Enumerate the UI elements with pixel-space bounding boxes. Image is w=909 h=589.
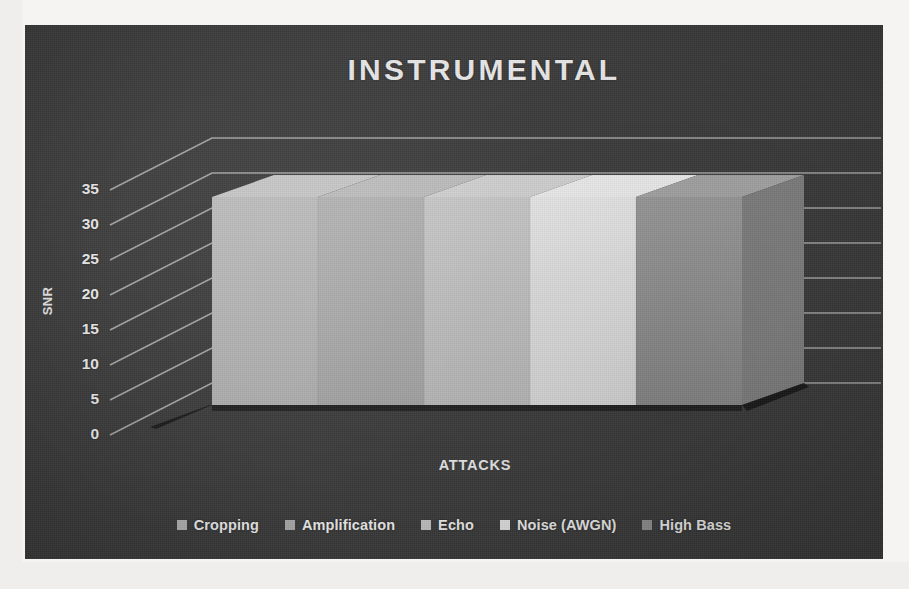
chart-page: INSTRUMENTAL SNR 35 30 25 20 15 10 5 0 A… xyxy=(0,0,909,589)
bar-side-face xyxy=(742,175,804,405)
y-tick-label-10: 10 xyxy=(55,355,99,373)
chart-title: INSTRUMENTAL xyxy=(25,53,883,87)
y-tick-label-20: 20 xyxy=(55,285,99,303)
y-tick-label-25: 25 xyxy=(55,250,99,268)
legend-label: Echo xyxy=(438,517,474,533)
y-tick-label-5: 5 xyxy=(55,390,99,408)
legend-swatch-icon xyxy=(421,520,431,530)
legend-swatch-icon xyxy=(500,520,510,530)
legend-swatch-icon xyxy=(285,520,295,530)
legend-item-high-bass[interactable]: High Bass xyxy=(642,517,731,533)
bar-front-faces xyxy=(212,197,742,405)
legend-swatch-icon xyxy=(642,520,652,530)
y-tick-label-0: 0 xyxy=(55,425,99,443)
bar-top-faces xyxy=(212,175,804,197)
y-tick-label-30: 30 xyxy=(55,215,99,233)
legend-item-echo[interactable]: Echo xyxy=(421,517,474,533)
chart-panel: INSTRUMENTAL SNR 35 30 25 20 15 10 5 0 A… xyxy=(25,25,883,559)
legend-item-cropping[interactable]: Cropping xyxy=(177,517,259,533)
legend-item-noise-awgn[interactable]: Noise (AWGN) xyxy=(500,517,616,533)
bar-group-3d xyxy=(25,25,883,559)
chart-legend: Cropping Amplification Echo Noise (AWGN)… xyxy=(25,517,883,533)
legend-label: Noise (AWGN) xyxy=(517,517,616,533)
legend-label: Amplification xyxy=(302,517,395,533)
legend-swatch-icon xyxy=(177,520,187,530)
legend-item-amplification[interactable]: Amplification xyxy=(285,517,395,533)
y-tick-label-15: 15 xyxy=(55,320,99,338)
x-axis-title: ATTACKS xyxy=(355,457,595,473)
y-tick-label-35: 35 xyxy=(55,180,99,198)
legend-label: Cropping xyxy=(194,517,259,533)
y-axis-title: SNR xyxy=(40,287,55,316)
legend-label: High Bass xyxy=(659,517,731,533)
